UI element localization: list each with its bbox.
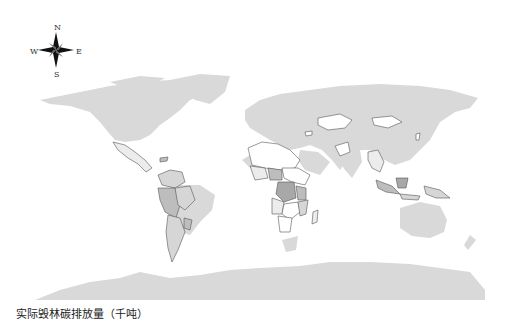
compass-west-label: W: [30, 47, 39, 56]
legend-title: 实际毁林碳排放量（千吨）: [16, 305, 148, 321]
compass-east-label: E: [76, 47, 82, 56]
no-data-land: [35, 74, 485, 300]
compass-north-label: N: [54, 23, 61, 32]
compass-south-label: S: [54, 70, 59, 78]
compass-rose-icon: N S W E: [28, 22, 84, 78]
